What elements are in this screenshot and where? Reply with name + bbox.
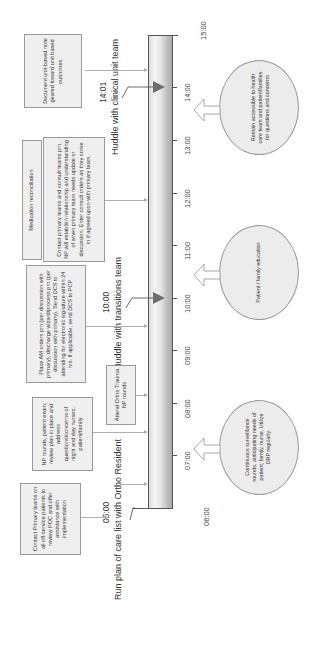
tick-label-1000: 10:00 [183,294,192,313]
arrowhead [144,482,148,486]
tick-label-1400: 14:00 [183,83,192,102]
arrowhead [144,393,148,397]
tick-1100 [173,245,177,246]
task-document: Document unit-based note geared toward u… [24,34,82,108]
connector-document [85,70,147,71]
tick-0800 [173,403,177,404]
task-np-rounds: NP rounds, patient exam, review plan in … [32,397,93,471]
arrowhead [144,198,148,202]
tick-label-0800: 08:00 [183,399,192,418]
connector-np-rounds [93,432,147,433]
start-leader-line [125,505,150,525]
ellipse-accessible-text: Remain accessible to health care team an… [235,70,285,145]
event-label-0600: Run plan of care list with Ortho Residen… [113,439,123,600]
task-contact-consult: Contact primary teams and consult teams … [43,137,105,262]
tick-1300 [173,140,177,141]
tick-label-0600: 06:00 [202,507,211,526]
event-label-1401: Huddle with clinical unit team [110,39,120,155]
event-label-1000: Huddle with transitions team [113,257,123,370]
connector-contact-primary [80,517,110,518]
hollow-arrow-education-icon [193,262,221,288]
arrowhead [144,68,148,72]
task-ortho-rounds: Attend Ortho Trauma NP rounds [106,365,136,425]
connector-contact-consult [103,200,147,201]
tick-1000 [173,298,177,299]
tick-label-1500: 15:00 [199,21,208,40]
arrowhead [144,430,148,434]
event-time-0600: 06:00 [101,502,111,523]
task-contact-primary: Contact Primary teams on all off-service… [20,483,81,555]
event-time-1000: 10:00 [101,292,111,313]
hollow-arrow-accessible-icon [193,97,221,123]
tick-0900 [173,350,177,351]
hollow-arrow-surveillance-icon [193,436,221,462]
timeline-end-cap [148,35,178,36]
connector-ortho-resident [120,484,147,485]
tick-1400 [173,87,177,88]
tick-label-1100: 11:00 [183,242,192,260]
task-am-orders: Place AM orders prn (per discussion with… [26,265,86,383]
event-time-1401: 14:01 [98,82,108,103]
ellipse-surveillance-text: Continuous surveillance rounds, anticipa… [233,412,283,482]
tick-1200 [173,193,177,194]
tick-label-0900: 09:00 [183,346,192,365]
connector-am-orders [85,326,147,327]
arrowhead [144,324,148,328]
tick-label-1300: 13:00 [183,136,192,155]
ellipse-education-text: Patient / family education [239,240,277,305]
task-med-rec: Medication reconciliation [22,140,42,260]
tick-label-0700: 07:00 [183,451,192,470]
tick-label-1200: 12:00 [183,189,192,208]
tick-0700 [173,455,177,456]
